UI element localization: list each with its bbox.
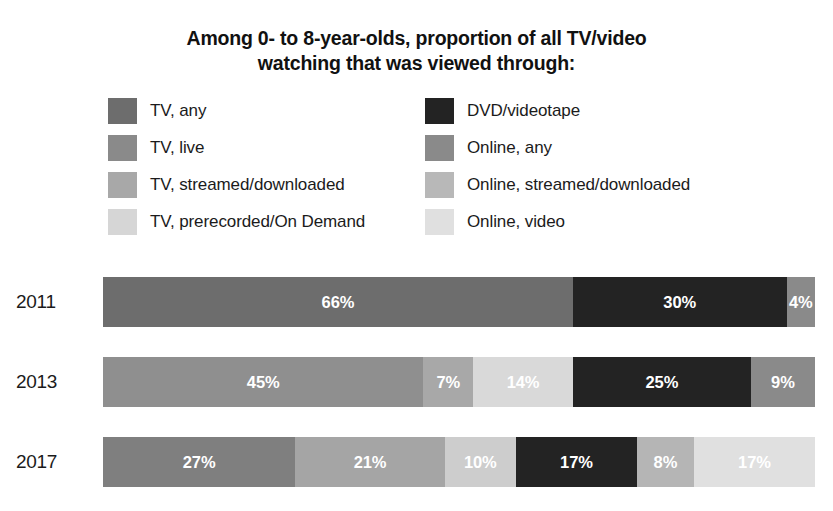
bar-segment[interactable]: 10%	[445, 437, 516, 487]
legend-item[interactable]: Online, video	[425, 203, 825, 240]
bar-segment-value-label: 25%	[646, 373, 679, 392]
legend-swatch-icon	[108, 172, 137, 198]
bar-segment[interactable]: 14%	[473, 357, 573, 407]
bar-segment-value-label: 17%	[738, 453, 771, 472]
bar-segment[interactable]: 45%	[103, 357, 423, 407]
bar-segment-value-label: 10%	[464, 453, 497, 472]
bar-segment-value-label: 9%	[771, 373, 795, 392]
legend-item-label: DVD/videotape	[467, 101, 580, 121]
chart-legend: TV, anyTV, liveTV, streamed/downloadedTV…	[0, 92, 833, 242]
chart-title-line-2: watching that was viewed through:	[0, 51, 833, 76]
legend-item[interactable]: DVD/videotape	[425, 92, 825, 129]
legend-swatch-icon	[108, 209, 137, 235]
bar-segment[interactable]: 7%	[423, 357, 473, 407]
legend-item-label: Online, any	[467, 138, 552, 158]
legend-column-right: DVD/videotapeOnline, anyOnline, streamed…	[425, 92, 825, 240]
legend-item-label: Online, video	[467, 212, 565, 232]
legend-item[interactable]: Online, any	[425, 129, 825, 166]
bar-track: 27%21%10%17%8%17%	[103, 437, 815, 487]
bar-row-year-label: 2011	[16, 277, 92, 327]
bar-row-year-label: 2017	[16, 437, 92, 487]
bar-row: 201166%30%4%	[0, 277, 833, 327]
bar-segment[interactable]: 66%	[103, 277, 573, 327]
chart-title-line-1: Among 0- to 8-year-olds, proportion of a…	[0, 26, 833, 51]
bar-segment-value-label: 30%	[663, 293, 696, 312]
legend-item-label: TV, any	[150, 101, 206, 121]
legend-item[interactable]: TV, live	[108, 129, 428, 166]
bar-segment[interactable]: 4%	[787, 277, 815, 327]
bar-track: 66%30%4%	[103, 277, 815, 327]
legend-item[interactable]: TV, any	[108, 92, 428, 129]
bar-track: 45%7%14%25%9%	[103, 357, 815, 407]
legend-item-label: TV, streamed/downloaded	[150, 175, 345, 195]
legend-item-label: TV, prerecorded/On Demand	[150, 212, 365, 232]
chart-title: Among 0- to 8-year-olds, proportion of a…	[0, 26, 833, 76]
legend-item[interactable]: Online, streamed/downloaded	[425, 166, 825, 203]
bar-segment-value-label: 45%	[247, 373, 280, 392]
legend-item-label: Online, streamed/downloaded	[467, 175, 690, 195]
chart-plot-area: 201166%30%4%201345%7%14%25%9%201727%21%1…	[0, 262, 833, 502]
bar-segment-value-label: 66%	[322, 293, 355, 312]
legend-column-left: TV, anyTV, liveTV, streamed/downloadedTV…	[108, 92, 428, 240]
legend-item[interactable]: TV, streamed/downloaded	[108, 166, 428, 203]
bar-segment-value-label: 4%	[789, 293, 813, 312]
bar-segment[interactable]: 8%	[637, 437, 694, 487]
bar-segment[interactable]: 30%	[573, 277, 787, 327]
bar-segment-value-label: 21%	[354, 453, 387, 472]
legend-swatch-icon	[108, 98, 137, 124]
bar-segment[interactable]: 17%	[516, 437, 637, 487]
bar-segment[interactable]: 17%	[694, 437, 815, 487]
bar-row: 201345%7%14%25%9%	[0, 357, 833, 407]
legend-swatch-icon	[425, 135, 454, 161]
legend-item-label: TV, live	[150, 138, 204, 158]
bar-segment-value-label: 17%	[560, 453, 593, 472]
bar-segment-value-label: 8%	[654, 453, 678, 472]
bar-segment[interactable]: 27%	[103, 437, 295, 487]
bar-segment[interactable]: 9%	[751, 357, 815, 407]
bar-segment[interactable]: 25%	[573, 357, 751, 407]
legend-swatch-icon	[425, 209, 454, 235]
bar-segment-value-label: 14%	[507, 373, 540, 392]
legend-swatch-icon	[425, 172, 454, 198]
bar-segment[interactable]: 21%	[295, 437, 445, 487]
legend-item[interactable]: TV, prerecorded/On Demand	[108, 203, 428, 240]
bar-row: 201727%21%10%17%8%17%	[0, 437, 833, 487]
bar-row-year-label: 2013	[16, 357, 92, 407]
bar-segment-value-label: 27%	[183, 453, 216, 472]
bar-segment-value-label: 7%	[436, 373, 460, 392]
legend-swatch-icon	[108, 135, 137, 161]
legend-swatch-icon	[425, 98, 454, 124]
